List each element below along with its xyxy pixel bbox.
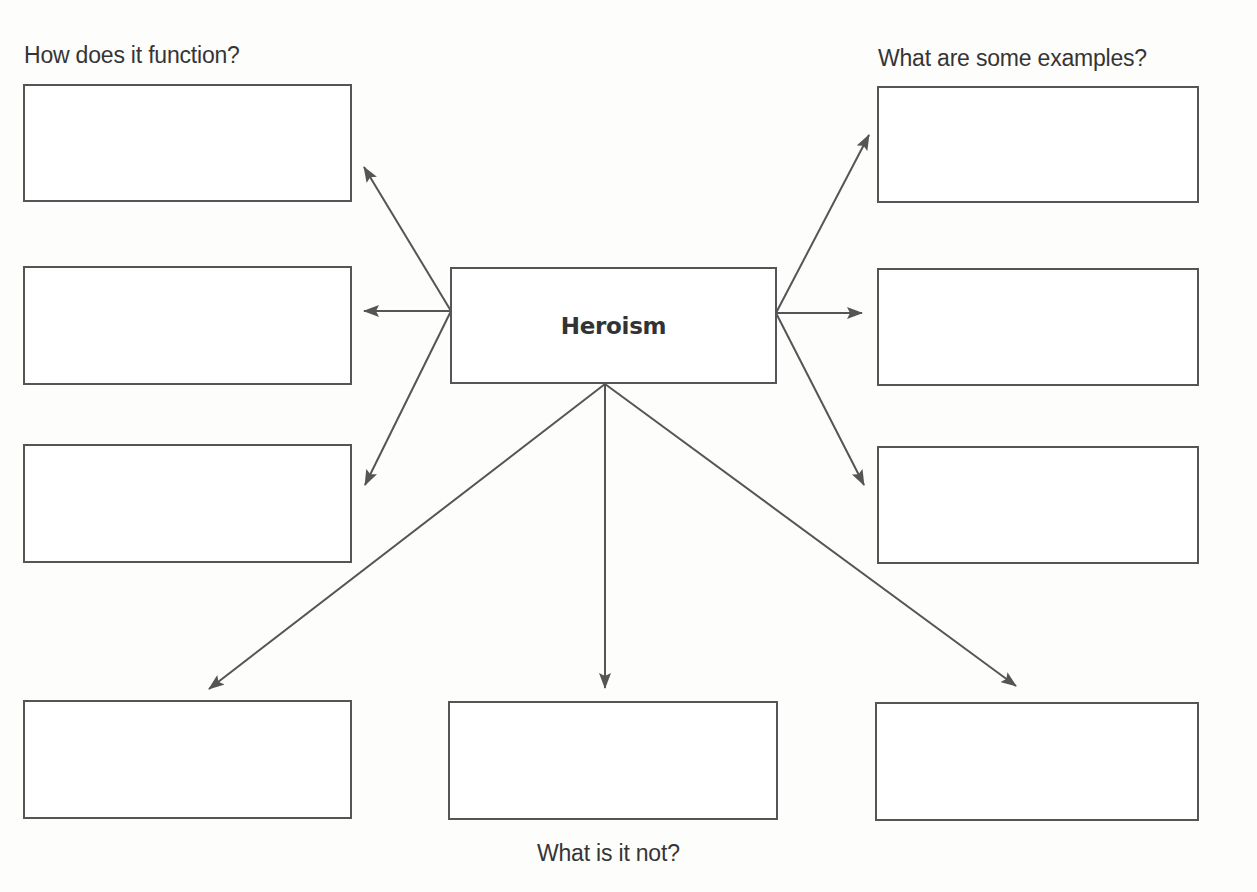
function-box-2[interactable]	[23, 266, 352, 385]
heading-how-does-it-function: How does it function?	[24, 42, 240, 69]
arrow-to-function-box-3	[365, 311, 451, 485]
not-box-3[interactable]	[875, 702, 1199, 821]
central-concept-box: Heroism	[450, 267, 777, 384]
heading-what-are-some-examples: What are some examples?	[878, 45, 1147, 72]
not-box-2[interactable]	[448, 701, 778, 820]
example-box-3[interactable]	[877, 446, 1199, 564]
function-box-1[interactable]	[23, 84, 352, 202]
heading-what-is-it-not: What is it not?	[537, 840, 680, 867]
arrow-to-example-box-3	[776, 313, 864, 485]
arrow-to-example-box-1	[776, 135, 869, 313]
function-box-3[interactable]	[23, 444, 352, 563]
example-box-1[interactable]	[877, 86, 1199, 203]
example-box-2[interactable]	[877, 268, 1199, 386]
arrow-to-function-box-1	[364, 167, 451, 311]
not-box-1[interactable]	[23, 700, 352, 819]
central-concept-label: Heroism	[561, 313, 666, 339]
